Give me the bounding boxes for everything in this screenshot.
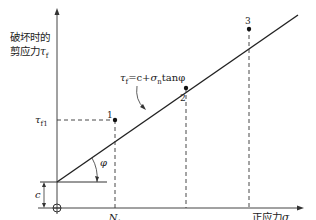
- failure-envelope-equation: τf=c+σntanφ: [120, 72, 185, 88]
- point-2-label: 2: [180, 92, 186, 104]
- y-axis-arrow-icon: [55, 8, 60, 15]
- failure-envelope-line: [57, 15, 298, 182]
- cohesion-label: c: [35, 189, 41, 201]
- point-1-label: 1: [107, 109, 113, 121]
- x-tick-fraction: N1: [104, 212, 126, 220]
- point-1-marker: [113, 118, 117, 122]
- y-axis-label-line2: 剪应力τf: [10, 45, 48, 62]
- x-axis-label: 正应力σn: [252, 211, 294, 220]
- tau-f1-label: τf1: [35, 114, 48, 130]
- y-axis-label-line1: 破坏时的: [10, 31, 50, 43]
- friction-angle-label: φ: [100, 157, 107, 169]
- point-3-marker: [247, 27, 251, 31]
- x-axis-arrow-icon: [297, 206, 304, 211]
- point-3-label: 3: [245, 15, 251, 27]
